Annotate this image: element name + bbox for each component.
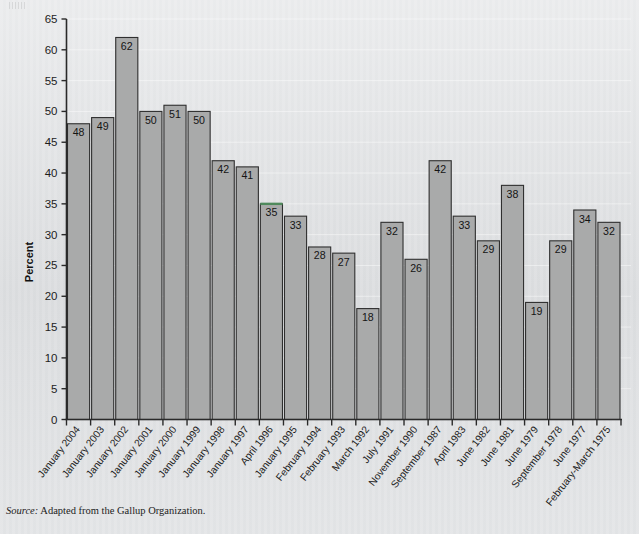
bar[interactable]	[212, 161, 234, 420]
bar[interactable]	[116, 37, 138, 419]
y-axis-tick-label: 15	[45, 321, 58, 333]
bar-value-label: 26	[410, 262, 422, 274]
bar-value-label: 19	[531, 305, 543, 317]
bar[interactable]	[501, 185, 523, 419]
bar[interactable]	[453, 216, 475, 419]
y-axis-title: Percent	[23, 241, 35, 282]
bar-value-label: 32	[603, 225, 615, 237]
bar-value-label: 27	[338, 256, 350, 268]
bar-value-label: 42	[217, 163, 229, 175]
bar[interactable]	[357, 309, 379, 420]
bar[interactable]	[574, 210, 596, 419]
bar-value-label: 42	[434, 163, 446, 175]
bar[interactable]	[236, 167, 258, 420]
bar-value-label: 41	[241, 169, 253, 181]
chart-canvas: 4849625051504241353328271832264233293819…	[0, 0, 639, 534]
bar-value-label: 38	[507, 188, 519, 200]
y-axis-tick-label: 20	[45, 290, 58, 302]
y-axis-tick-label: 60	[45, 44, 58, 56]
bar[interactable]	[429, 161, 451, 420]
bar[interactable]	[140, 111, 162, 419]
bar-value-label: 29	[483, 243, 495, 255]
y-axis-tick-label: 30	[45, 229, 58, 241]
source-text: Adapted from the Gallup Organization.	[38, 505, 205, 516]
bar-value-label: 51	[169, 108, 181, 120]
y-axis-tick-label: 45	[45, 136, 58, 148]
bar-value-label: 29	[555, 243, 567, 255]
bar-value-label: 28	[314, 249, 326, 261]
bar-value-label: 33	[458, 219, 470, 231]
bar[interactable]	[284, 216, 306, 419]
bar[interactable]	[526, 302, 548, 419]
y-axis-tick-label: 35	[45, 198, 58, 210]
y-axis-tick-label: 40	[45, 167, 58, 179]
source-note: Source: Adapted from the Gallup Organiza…	[6, 505, 205, 516]
bar-value-label: 50	[145, 114, 157, 126]
y-axis-tick-label: 0	[51, 414, 57, 426]
bar[interactable]	[260, 204, 282, 420]
bar[interactable]	[68, 124, 90, 420]
bar-value-label: 32	[386, 225, 398, 237]
bar-value-label: 33	[290, 219, 302, 231]
bar[interactable]	[92, 118, 114, 420]
y-axis-tick-label: 50	[45, 105, 58, 117]
bar[interactable]	[405, 259, 427, 419]
bar-value-label: 62	[121, 40, 133, 52]
y-axis-tick-label: 5	[51, 383, 57, 395]
bar[interactable]	[164, 105, 186, 419]
bar[interactable]	[333, 253, 355, 419]
bar-chart: 4849625051504241353328271832264233293819…	[0, 0, 639, 534]
bar-value-label: 49	[97, 120, 109, 132]
y-axis-tick-label: 55	[45, 75, 58, 87]
bar-value-label: 50	[193, 114, 205, 126]
scan-artifact	[9, 2, 25, 9]
y-axis-tick-label: 10	[45, 352, 58, 364]
bar-value-label: 18	[362, 311, 374, 323]
bar[interactable]	[188, 111, 210, 419]
source-label: Source:	[6, 505, 38, 516]
y-axis-tick-label: 65	[45, 13, 58, 25]
bar-value-label: 35	[266, 206, 278, 218]
y-axis-tick-label: 25	[45, 259, 58, 271]
bar[interactable]	[550, 241, 572, 420]
bar-value-label: 34	[579, 213, 591, 225]
bar[interactable]	[477, 241, 499, 420]
bar[interactable]	[598, 222, 620, 419]
bar[interactable]	[309, 247, 331, 420]
bar-value-label: 48	[73, 126, 85, 138]
bar[interactable]	[381, 222, 403, 419]
